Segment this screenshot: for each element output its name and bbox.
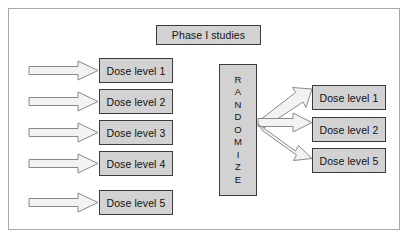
randomize-letter-9: E [235, 174, 241, 187]
randomize-letter-5: O [234, 124, 241, 137]
phase-1-study-design-diagram: Phase I studies Dose level 1 Dose level … [0, 0, 409, 239]
inflow-arrow-1 [29, 61, 98, 80]
left-dose-box-5: Dose level 5 [99, 190, 173, 215]
randomize-letter-3: N [235, 99, 242, 112]
left-dose-box-2: Dose level 2 [99, 89, 173, 114]
title-box: Phase I studies [156, 25, 261, 45]
inflow-arrow-2 [29, 92, 98, 111]
inflow-arrow-5 [29, 193, 98, 212]
right-dose-box-1: Dose level 1 [312, 85, 386, 110]
inflow-arrow-4 [29, 154, 98, 173]
randomize-box: R A N D O M I Z E [219, 64, 257, 196]
randomize-arrow-down [258, 124, 312, 161]
inflow-arrow-3 [29, 123, 98, 142]
left-dose-box-4: Dose level 4 [99, 151, 173, 176]
right-dose-box-3: Dose level 5 [312, 148, 386, 173]
right-dose-box-2: Dose level 2 [312, 117, 386, 142]
randomize-letter-1: R [235, 74, 242, 87]
randomize-letter-7: I [237, 149, 240, 162]
randomize-letter-6: M [234, 136, 242, 149]
randomize-letter-8: Z [235, 161, 241, 174]
left-dose-box-3: Dose level 3 [99, 120, 173, 145]
randomize-letter-4: D [235, 111, 242, 124]
left-dose-box-1: Dose level 1 [99, 58, 173, 83]
randomize-letter-2: A [235, 86, 241, 99]
